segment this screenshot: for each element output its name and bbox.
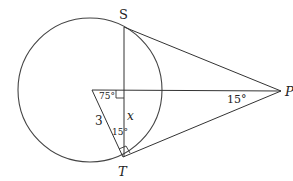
tangent-line-TP (123, 91, 281, 157)
point-label-P: P (284, 84, 293, 99)
right-angle-marker-center (116, 90, 124, 98)
center-to-P-line (92, 90, 281, 91)
point-label-T: T (118, 164, 128, 179)
tangent-line-SP (124, 27, 281, 91)
angle-label-T: 15° (112, 127, 128, 137)
geometry-diagram: S T P 75° 15° 15° 3 x (0, 0, 293, 181)
angle-label-center: 75° (99, 91, 115, 101)
angle-label-P: 15° (227, 93, 247, 106)
side-label-x: x (127, 109, 134, 123)
side-label-radius: 3 (95, 114, 103, 128)
point-label-S: S (119, 7, 128, 22)
